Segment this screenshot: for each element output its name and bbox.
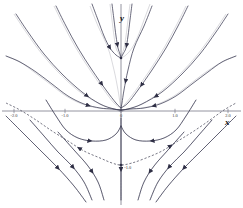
y-axis-label: y (120, 14, 124, 23)
svg-text:-1.0: -1.0 (62, 113, 70, 118)
svg-text:1.0: 1.0 (172, 113, 178, 118)
svg-text:-2.0: -2.0 (11, 113, 19, 118)
phase-portrait-canvas: -2.0-1.001.02.0-1.0 (0, 0, 243, 208)
phase-portrait-figure: -2.0-1.001.02.0-1.0 y x (0, 0, 243, 208)
svg-text:-1.0: -1.0 (124, 165, 132, 170)
x-axis-label: x (225, 118, 230, 127)
svg-text:0: 0 (120, 113, 123, 118)
